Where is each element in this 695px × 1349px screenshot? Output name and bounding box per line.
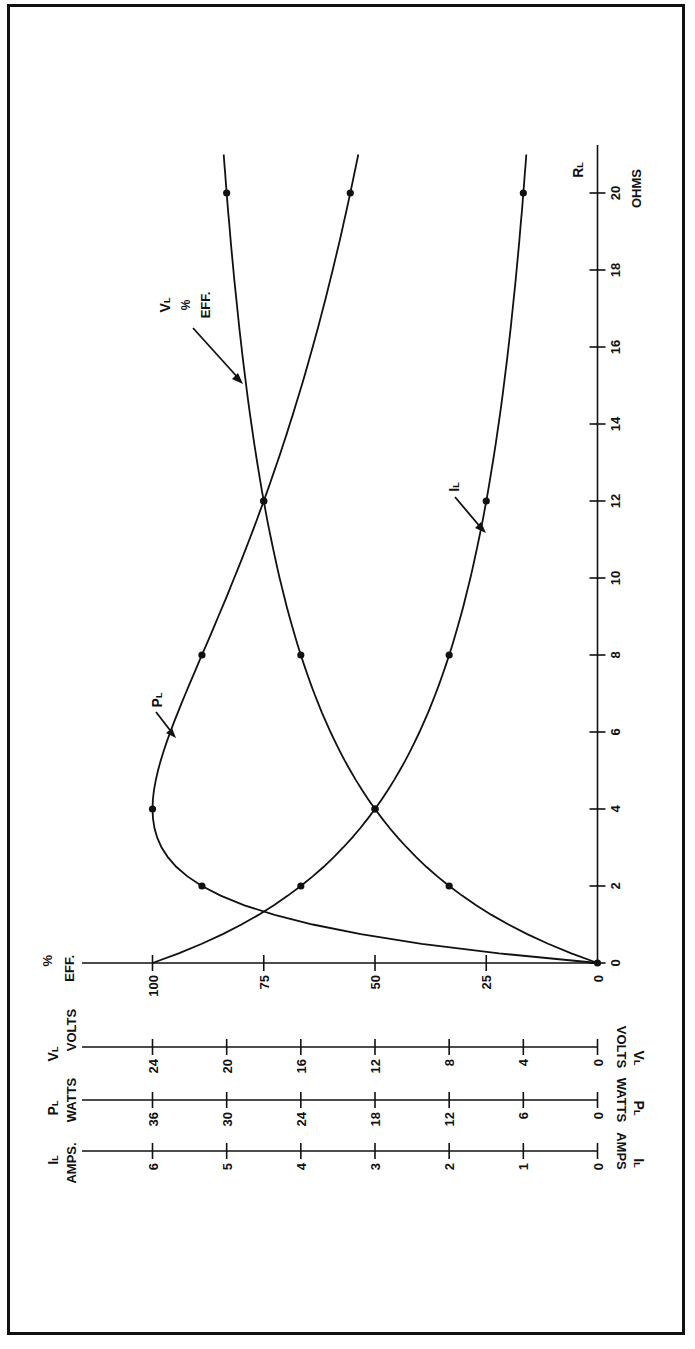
svg-text:VL: VL [631, 1051, 647, 1066]
volts-tick-labels: 04812162024 [146, 1058, 606, 1073]
ohms-tick-label: 12 [608, 494, 623, 508]
data-point [198, 882, 205, 889]
data-point [446, 651, 453, 658]
ohms-tick-label: 6 [608, 728, 623, 735]
data-point [520, 189, 527, 196]
eff-tick-label: 0 [591, 975, 606, 982]
svg-text:VOLTS: VOLTS [614, 1026, 629, 1069]
data-point [297, 882, 304, 889]
amps-tick-labels: 0123456 [146, 1162, 606, 1170]
svg-text:IL: IL [446, 482, 462, 492]
ohms-tick-label: 20 [608, 186, 623, 200]
volts-axis-title-right: VOLTS VL [614, 1026, 647, 1069]
data-point [198, 651, 205, 658]
ohms-tick-label: 10 [608, 571, 623, 585]
il-curve [153, 155, 527, 964]
svg-text:VL: VL [157, 297, 173, 312]
pl-tick-label: 24 [294, 1111, 309, 1126]
ohms-tick-label: 2 [608, 882, 623, 889]
data-point [297, 651, 304, 658]
eff-tick-label: 25 [479, 975, 494, 989]
il-tick-label: 4 [294, 1162, 309, 1170]
data-point [260, 497, 267, 504]
ohms-tick-label: 16 [608, 340, 623, 354]
ohms-tick-label: 0 [608, 959, 623, 966]
volts-axis-title: VL VOLTS [45, 1008, 79, 1061]
data-point [149, 805, 156, 812]
pl-tick-label: 36 [146, 1112, 161, 1126]
il-tick-label: 5 [220, 1163, 235, 1170]
svg-text:VOLTS: VOLTS [64, 1008, 79, 1051]
ohms-tick-label: 8 [608, 651, 623, 658]
pl-curve [153, 155, 598, 964]
vl-tick-label: 12 [368, 1059, 383, 1073]
eff-tick-labels: 0255075100 [146, 975, 606, 997]
ohms-tick-label: 18 [608, 263, 623, 277]
svg-text:PL: PL [45, 1100, 61, 1115]
vl-eff-curve [224, 155, 598, 964]
volts-axis [82, 1039, 598, 1055]
vl-tick-label: 4 [516, 1058, 531, 1066]
svg-text:WATTS: WATTS [614, 1078, 629, 1123]
watts-axis-title-right: WATTS PL [614, 1078, 647, 1123]
vl-tick-label: 0 [591, 1059, 606, 1066]
watts-tick-labels: 061218243036 [146, 1111, 606, 1126]
svg-text:EFF.: EFF. [62, 955, 77, 982]
amps-axis [82, 1143, 598, 1159]
data-point [446, 882, 453, 889]
eff-axis [82, 955, 598, 971]
arrowhead-icon [166, 728, 176, 738]
chart-canvas: 02468101214161820 RL OHMS 0255075100 048… [0, 0, 695, 1349]
eff-tick-label: 100 [146, 975, 161, 997]
il-arrow-icon [455, 497, 482, 529]
eff-tick-label: 50 [368, 975, 383, 989]
vl-arrow-icon [193, 328, 240, 380]
ohms-axis [590, 145, 606, 963]
svg-text:PL: PL [631, 1101, 647, 1116]
pl-tick-label: 18 [368, 1112, 383, 1126]
eff-axis-title: % EFF. [40, 955, 77, 982]
ohms-tick-labels: 02468101214161820 [608, 186, 623, 967]
il-tick-label: 6 [146, 1163, 161, 1170]
pl-tick-label: 6 [516, 1112, 531, 1119]
ohms-tick-label: 4 [608, 805, 623, 813]
svg-text:EFF.: EFF. [198, 292, 213, 319]
svg-text:AMPS: AMPS [614, 1132, 629, 1170]
pl-curve-label: PL [149, 692, 176, 738]
svg-text:PL: PL [149, 692, 165, 707]
svg-text:%: % [179, 299, 193, 310]
arrowhead-icon [232, 373, 243, 384]
svg-text:VL: VL [45, 1046, 61, 1061]
vl-tick-label: 16 [294, 1059, 309, 1073]
data-point [371, 805, 378, 812]
il-tick-label: 2 [442, 1163, 457, 1170]
vl-eff-curve-label: VL % EFF. [157, 292, 243, 384]
amps-axis-title: IL AMPS. [45, 1142, 79, 1183]
svg-text:RL: RL [570, 162, 586, 178]
pl-tick-label: 12 [442, 1112, 457, 1126]
data-point [483, 497, 490, 504]
ohms-tick-label: 14 [608, 416, 623, 431]
il-tick-label: 0 [591, 1163, 606, 1170]
amps-axis-title-right: AMPS IL [614, 1132, 647, 1170]
pl-tick-label: 30 [220, 1112, 235, 1126]
il-curve-label: IL [446, 482, 486, 533]
eff-tick-label: 75 [257, 975, 272, 989]
data-point [347, 189, 354, 196]
svg-text:%: % [40, 955, 55, 967]
pl-tick-label: 0 [591, 1112, 606, 1119]
data-point [594, 959, 601, 966]
curves [153, 155, 598, 964]
watts-axis [82, 1092, 598, 1108]
data-point [223, 189, 230, 196]
vl-tick-label: 20 [220, 1059, 235, 1073]
svg-text:OHMS: OHMS [629, 169, 644, 208]
vl-tick-label: 8 [442, 1059, 457, 1066]
svg-text:IL: IL [45, 1155, 61, 1165]
vl-tick-label: 24 [146, 1058, 161, 1073]
data-points [149, 189, 601, 966]
il-tick-label: 1 [516, 1163, 531, 1170]
il-tick-label: 3 [368, 1163, 383, 1170]
svg-text:WATTS: WATTS [64, 1077, 79, 1122]
svg-text:AMPS.: AMPS. [64, 1142, 79, 1183]
